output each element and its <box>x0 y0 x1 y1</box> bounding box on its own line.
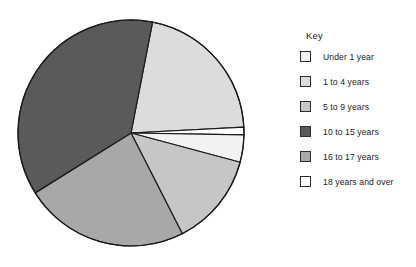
legend-item[interactable]: 1 to 4 years <box>300 75 416 88</box>
legend-item-label: 18 years and over <box>323 177 394 187</box>
legend-swatch <box>300 151 311 162</box>
legend-item-label: 5 to 9 years <box>323 102 369 112</box>
legend-item-label: 1 to 4 years <box>323 77 369 87</box>
chart-legend: Key Under 1 year1 to 4 years5 to 9 years… <box>300 30 416 220</box>
legend-item-label: 16 to 17 years <box>323 152 379 162</box>
legend-swatch <box>300 126 311 137</box>
legend-swatch <box>300 101 311 112</box>
legend-item-list: Under 1 year1 to 4 years5 to 9 years10 t… <box>300 50 416 188</box>
legend-swatch <box>300 176 311 187</box>
pie-chart-plot-area <box>8 8 258 260</box>
pie-slice-group <box>18 20 244 246</box>
legend-item-label: 10 to 15 years <box>323 127 379 137</box>
pie-chart-figure: Key Under 1 year1 to 4 years5 to 9 years… <box>0 0 416 267</box>
legend-item[interactable]: 16 to 17 years <box>300 150 416 163</box>
legend-item[interactable]: 18 years and over <box>300 175 416 188</box>
legend-item[interactable]: 10 to 15 years <box>300 125 416 138</box>
legend-item[interactable]: Under 1 year <box>300 50 416 63</box>
legend-item-label: Under 1 year <box>323 52 374 62</box>
legend-item[interactable]: 5 to 9 years <box>300 100 416 113</box>
legend-swatch <box>300 76 311 87</box>
legend-title: Key <box>306 30 416 41</box>
pie-chart-svg <box>8 8 258 260</box>
legend-swatch <box>300 51 311 62</box>
